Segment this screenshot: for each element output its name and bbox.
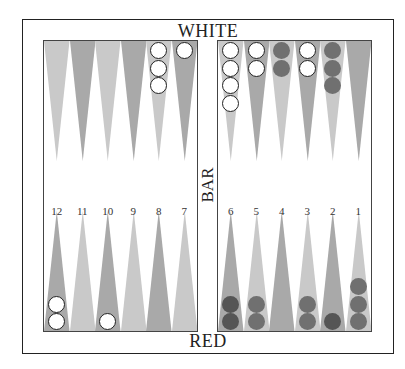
red-checker[interactable] <box>248 313 265 330</box>
white-checker[interactable] <box>99 313 116 330</box>
white-checker[interactable] <box>248 60 265 77</box>
white-checker[interactable] <box>150 77 167 94</box>
point-number-label: 2 <box>320 205 346 217</box>
red-checker[interactable] <box>324 42 341 59</box>
white-checker[interactable] <box>222 42 239 59</box>
red-checker[interactable] <box>222 313 239 330</box>
point-bottom-right-1[interactable] <box>244 211 270 331</box>
point-triangle-icon <box>70 211 96 331</box>
point-triangle-icon <box>146 211 172 331</box>
point-number-label: 11 <box>70 205 96 217</box>
red-checker[interactable] <box>299 296 316 313</box>
white-checker[interactable] <box>299 42 316 59</box>
player-label-red: RED <box>23 331 393 352</box>
point-top-left-2[interactable] <box>95 41 121 161</box>
point-bottom-left-2[interactable] <box>95 211 121 331</box>
board-half-right: 654321 <box>217 40 372 332</box>
red-checker[interactable] <box>222 296 239 313</box>
bar-label: BAR <box>198 168 218 203</box>
point-triangle-icon <box>172 211 198 331</box>
white-checker[interactable] <box>248 42 265 59</box>
point-triangle-icon <box>346 41 372 161</box>
point-triangle-icon <box>70 41 96 161</box>
red-checker[interactable] <box>324 313 341 330</box>
point-number-label: 9 <box>121 205 147 217</box>
point-top-left-3[interactable] <box>121 41 147 161</box>
point-bottom-left-0[interactable] <box>44 211 70 331</box>
white-checker[interactable] <box>48 296 65 313</box>
point-bottom-right-2[interactable] <box>269 211 295 331</box>
white-checker[interactable] <box>222 60 239 77</box>
point-top-right-2[interactable] <box>269 41 295 161</box>
red-checker[interactable] <box>273 42 290 59</box>
white-checker[interactable] <box>176 42 193 59</box>
point-number-label: 7 <box>172 205 198 217</box>
point-number-label: 1 <box>346 205 372 217</box>
red-checker[interactable] <box>248 296 265 313</box>
red-checker[interactable] <box>350 278 367 295</box>
red-checker[interactable] <box>324 60 341 77</box>
point-number-label: 8 <box>146 205 172 217</box>
red-checker[interactable] <box>324 77 341 94</box>
point-top-right-3[interactable] <box>295 41 321 161</box>
point-number-label: 10 <box>95 205 121 217</box>
point-number-label: 3 <box>295 205 321 217</box>
point-triangle-icon <box>44 41 70 161</box>
point-top-right-1[interactable] <box>244 41 270 161</box>
point-bottom-right-0[interactable] <box>218 211 244 331</box>
point-bottom-right-4[interactable] <box>320 211 346 331</box>
point-number-label: 12 <box>44 205 70 217</box>
bar[interactable]: BAR <box>198 40 217 332</box>
point-top-left-4[interactable] <box>146 41 172 161</box>
player-label-white: WHITE <box>23 21 393 42</box>
point-triangle-icon <box>320 41 346 161</box>
white-checker[interactable] <box>150 42 167 59</box>
point-bottom-right-5[interactable] <box>346 211 372 331</box>
point-top-left-0[interactable] <box>44 41 70 161</box>
point-triangle-icon <box>121 211 147 331</box>
point-top-left-5[interactable] <box>172 41 198 161</box>
point-bottom-left-5[interactable] <box>172 211 198 331</box>
point-triangle-icon <box>95 41 121 161</box>
point-top-left-1[interactable] <box>70 41 96 161</box>
point-number-label: 6 <box>218 205 244 217</box>
point-bottom-right-3[interactable] <box>295 211 321 331</box>
point-triangle-icon <box>269 211 295 331</box>
point-number-label: 5 <box>244 205 270 217</box>
white-checker[interactable] <box>48 313 65 330</box>
point-number-label: 4 <box>269 205 295 217</box>
point-bottom-left-4[interactable] <box>146 211 172 331</box>
white-checker[interactable] <box>222 77 239 94</box>
point-top-right-4[interactable] <box>320 41 346 161</box>
point-triangle-icon <box>269 41 295 161</box>
point-top-right-0[interactable] <box>218 41 244 161</box>
white-checker[interactable] <box>150 60 167 77</box>
point-bottom-left-3[interactable] <box>121 211 147 331</box>
white-checker[interactable] <box>222 95 239 112</box>
red-checker[interactable] <box>299 313 316 330</box>
board-half-left: 121110987 <box>43 40 198 332</box>
point-triangle-icon <box>146 41 172 161</box>
red-checker[interactable] <box>350 296 367 313</box>
red-checker[interactable] <box>350 313 367 330</box>
point-triangle-icon <box>172 41 198 161</box>
point-top-right-5[interactable] <box>346 41 372 161</box>
point-bottom-left-1[interactable] <box>70 211 96 331</box>
red-checker[interactable] <box>273 60 290 77</box>
white-checker[interactable] <box>299 60 316 77</box>
point-triangle-icon <box>121 41 147 161</box>
